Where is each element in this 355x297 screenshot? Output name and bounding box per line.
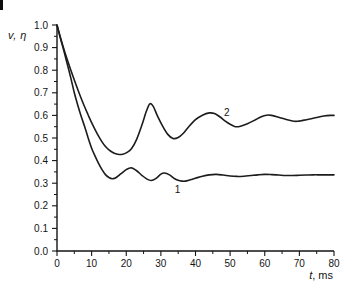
x-tick-label: 40 bbox=[190, 258, 202, 269]
x-axis-label-unit: , ms bbox=[312, 269, 333, 281]
x-tick-label: 10 bbox=[86, 258, 98, 269]
x-axis-label: t, ms bbox=[283, 269, 333, 281]
x-tick-label: 70 bbox=[294, 258, 306, 269]
figure: v, η 1.00.90.80.70.60.50.40.30.20.10.001… bbox=[0, 0, 355, 297]
y-tick-label: 0.8 bbox=[34, 65, 48, 76]
x-tick-label: 0 bbox=[54, 258, 60, 269]
x-tick-label: 30 bbox=[155, 258, 167, 269]
y-tick-label: 1.0 bbox=[34, 20, 48, 31]
y-tick-label: 0.5 bbox=[34, 133, 48, 144]
y-tick-label: 0.0 bbox=[34, 246, 48, 257]
y-tick-label: 0.9 bbox=[34, 42, 48, 53]
x-tick-label: 50 bbox=[225, 258, 237, 269]
y-tick-label: 0.3 bbox=[34, 178, 48, 189]
y-tick-label: 0.4 bbox=[34, 155, 48, 166]
curve-2 bbox=[57, 25, 334, 155]
x-tick-label: 80 bbox=[328, 258, 340, 269]
axes-line bbox=[57, 25, 334, 251]
x-tick-label: 60 bbox=[259, 258, 271, 269]
x-tick-label: 20 bbox=[121, 258, 133, 269]
curve-label-1: 1 bbox=[175, 184, 181, 195]
y-tick-label: 0.1 bbox=[34, 223, 48, 234]
y-tick-label: 0.7 bbox=[34, 87, 48, 98]
y-tick-label: 0.6 bbox=[34, 110, 48, 121]
y-tick-label: 0.2 bbox=[34, 200, 48, 211]
curve-label-2: 2 bbox=[224, 107, 230, 118]
chart-canvas: 1.00.90.80.70.60.50.40.30.20.10.00102030… bbox=[0, 0, 355, 297]
curve-1 bbox=[57, 25, 334, 181]
